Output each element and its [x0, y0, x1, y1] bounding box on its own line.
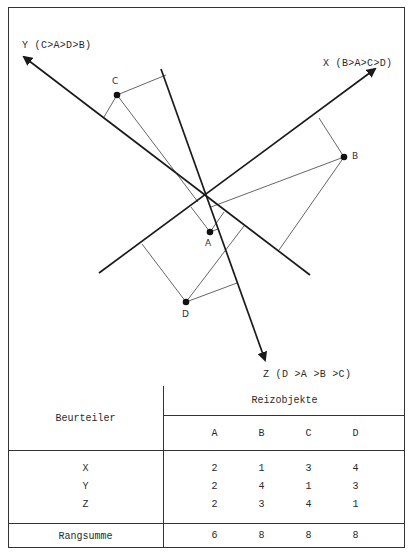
- point-b: [341, 154, 348, 161]
- axis-y-label: Y (C>A>D>B): [22, 40, 91, 51]
- column-headers: A B C D: [164, 416, 406, 451]
- point-c: [114, 92, 121, 99]
- row-header: Beurteiler: [8, 386, 164, 451]
- axis-z: [161, 69, 265, 360]
- rank-sum-label: Rangsumme: [8, 524, 164, 549]
- rank-cell: 3: [285, 460, 332, 478]
- rank-cell: 2: [191, 478, 238, 496]
- rater-z: Z: [8, 496, 163, 514]
- rank-sum-cell: 8: [238, 527, 285, 545]
- table-row: 2 1 3 4: [164, 460, 405, 478]
- point-a-label: A: [205, 238, 211, 248]
- rank-sum-cell: 8: [285, 527, 332, 545]
- rater-x: X: [8, 460, 163, 478]
- column-group-header: Reizobjekte: [164, 386, 406, 416]
- point-d-label: D: [182, 309, 189, 319]
- rank-cell: 1: [238, 460, 285, 478]
- column-header-c: C: [285, 428, 332, 439]
- point-d: [183, 299, 190, 306]
- rank-cell: 3: [332, 478, 379, 496]
- projection-lines: [104, 75, 344, 302]
- axis-x: [99, 69, 375, 273]
- rank-cell: 4: [238, 478, 285, 496]
- table-row: 2 4 1 3: [164, 478, 405, 496]
- axis-x-label: X (B>A>C>D): [323, 58, 392, 69]
- projection-a-x: [191, 207, 210, 232]
- table-row: 2 3 4 1: [164, 496, 405, 514]
- projection-b-y: [279, 157, 344, 250]
- rank-cell: 1: [332, 496, 379, 514]
- rank-table: Beurteiler Reizobjekte A B C D X Y Z 2 1…: [8, 386, 405, 548]
- rank-cell: 2: [191, 460, 238, 478]
- column-header-a: A: [191, 428, 238, 439]
- rater-y: Y: [8, 478, 163, 496]
- rank-cell: 1: [285, 478, 332, 496]
- projection-c-x: [117, 95, 198, 202]
- projection-c-z: [117, 75, 166, 95]
- axis-z-label: Z (D >A >B >C): [263, 369, 351, 380]
- projection-c-y: [104, 95, 117, 117]
- projection-d-x: [142, 244, 186, 302]
- projection-d-y: [186, 226, 244, 302]
- projection-b-x: [319, 118, 344, 157]
- rank-values: 2 1 3 4 2 4 1 3 2 3 4 1: [164, 451, 406, 524]
- point-b-label: B: [352, 151, 358, 161]
- axis-y: [24, 57, 310, 275]
- rater-names: X Y Z: [8, 451, 164, 524]
- rank-sum-cell: 8: [332, 527, 379, 545]
- rank-cell: 2: [191, 496, 238, 514]
- projection-b-z: [211, 157, 344, 207]
- rank-cell: 4: [285, 496, 332, 514]
- rank-cell: 4: [332, 460, 379, 478]
- rank-sum-cell: 6: [191, 527, 238, 545]
- point-c-label: C: [112, 76, 118, 86]
- rank-cell: 3: [238, 496, 285, 514]
- column-header-b: B: [238, 428, 285, 439]
- column-header-d: D: [332, 428, 379, 439]
- point-a: [207, 229, 214, 236]
- rank-sum-values: 6 8 8 8: [164, 524, 406, 549]
